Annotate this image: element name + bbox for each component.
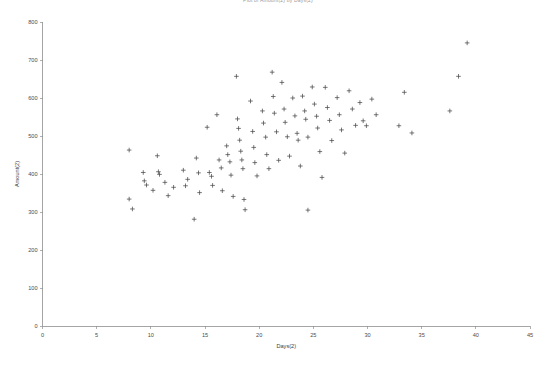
data-point	[280, 80, 285, 85]
y-tick-label: 700	[28, 57, 37, 63]
data-point	[320, 175, 325, 180]
data-point	[337, 112, 342, 117]
plot-canvas: 0100200300400500600700800 05101520253035…	[0, 0, 556, 371]
x-tick-label: 30	[364, 332, 370, 338]
data-point	[315, 126, 320, 131]
data-point	[374, 112, 379, 117]
data-point	[276, 158, 281, 163]
data-point	[370, 97, 375, 102]
data-point	[347, 88, 352, 93]
data-point	[155, 153, 160, 158]
x-tick-label: 20	[256, 332, 262, 338]
data-point	[250, 129, 255, 134]
data-point	[217, 158, 222, 163]
data-point	[183, 183, 188, 188]
data-point	[318, 149, 323, 154]
data-point	[302, 109, 307, 114]
data-point	[260, 109, 265, 114]
data-point	[237, 138, 242, 143]
data-point	[251, 145, 256, 150]
y-tick-label: 0	[34, 323, 37, 329]
data-point	[274, 130, 279, 135]
data-point	[142, 179, 147, 184]
data-point	[339, 128, 344, 133]
data-point	[270, 70, 275, 75]
data-point	[151, 188, 156, 193]
data-point	[220, 188, 225, 193]
data-point	[228, 160, 233, 165]
data-point	[205, 125, 210, 130]
data-point	[325, 105, 330, 110]
data-point	[225, 152, 230, 157]
data-point	[303, 117, 308, 122]
data-point	[181, 168, 186, 173]
data-point	[130, 207, 135, 212]
data-point	[238, 149, 243, 154]
x-tick-label: 35	[419, 332, 425, 338]
y-axis-ticks: 0100200300400500600700800	[28, 19, 42, 329]
data-point	[234, 74, 239, 79]
data-point	[300, 94, 305, 99]
data-point	[255, 174, 260, 179]
data-point	[127, 197, 132, 202]
data-point	[296, 138, 301, 143]
data-point	[410, 131, 415, 136]
x-axis-ticks: 051015202530354045	[41, 326, 533, 338]
y-tick-label: 200	[28, 247, 37, 253]
data-point	[196, 171, 201, 176]
data-point	[235, 117, 240, 122]
data-point	[272, 111, 277, 116]
x-tick-label: 0	[41, 332, 44, 338]
data-point	[127, 148, 132, 153]
data-point	[229, 173, 234, 178]
data-point	[298, 164, 303, 169]
data-point	[242, 197, 247, 202]
y-tick-label: 500	[28, 133, 37, 139]
data-point	[465, 41, 470, 46]
data-point	[306, 208, 311, 213]
data-point-markers	[127, 41, 470, 222]
data-point	[209, 174, 214, 179]
data-point	[241, 166, 246, 171]
data-point	[310, 85, 315, 90]
data-point	[283, 120, 288, 125]
data-point	[248, 99, 253, 104]
data-point	[194, 156, 199, 161]
y-tick-label: 100	[28, 285, 37, 291]
x-tick-label: 40	[473, 332, 479, 338]
data-point	[166, 193, 171, 198]
data-point	[312, 102, 317, 107]
data-point	[271, 94, 276, 99]
data-point	[231, 194, 236, 199]
data-point	[156, 169, 161, 174]
data-point	[263, 135, 268, 140]
x-tick-label: 15	[202, 332, 208, 338]
scatter-plot-figure: Plot of Amount(2) by Days(2) 01002003004…	[0, 0, 556, 371]
data-point	[185, 177, 190, 182]
data-point	[171, 185, 176, 190]
data-point	[236, 126, 241, 131]
data-point	[240, 158, 245, 163]
data-point	[293, 114, 298, 119]
data-point	[267, 166, 272, 171]
y-tick-label: 600	[28, 95, 37, 101]
data-point	[350, 107, 355, 112]
data-point	[402, 90, 407, 95]
data-point	[329, 138, 334, 143]
data-point	[163, 180, 168, 185]
data-point	[261, 121, 266, 126]
data-point	[243, 207, 248, 212]
data-point	[197, 190, 202, 195]
data-point	[253, 160, 258, 165]
data-point	[342, 151, 347, 156]
data-point	[192, 217, 197, 222]
y-axis-title: Amount(2)	[14, 161, 20, 187]
data-point	[282, 107, 287, 112]
data-point	[264, 152, 269, 157]
x-tick-label: 10	[148, 332, 154, 338]
data-point	[335, 95, 340, 100]
data-point	[448, 109, 453, 114]
data-point	[290, 96, 295, 101]
data-point	[456, 74, 461, 79]
data-point	[224, 144, 229, 149]
